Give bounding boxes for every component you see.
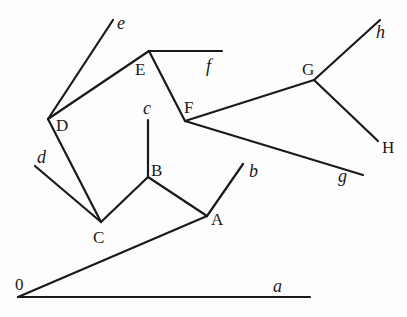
edge-G-h [314, 20, 380, 80]
leaf-label-f: f [206, 56, 214, 76]
leaf-label-h: h [376, 22, 385, 42]
edge-A-b [207, 164, 243, 216]
edge-D-e [48, 20, 113, 119]
edge-D-E [48, 51, 149, 119]
node-label-D: D [56, 116, 68, 135]
edge-C-d [35, 166, 101, 222]
leaf-label-c: c [143, 98, 151, 118]
node-label-A: A [211, 210, 224, 229]
labels-layer: 0ABCDEFGHabcdefgh [15, 13, 394, 296]
leaf-label-a: a [273, 276, 282, 296]
node-label-B: B [151, 161, 162, 180]
leaf-label-d: d [37, 147, 47, 167]
edge-A-B [148, 177, 207, 216]
edge-0-A [18, 216, 207, 297]
edge-B-C [101, 177, 148, 222]
node-label-F: F [184, 98, 193, 117]
edge-G-H [314, 80, 378, 141]
leaf-label-g: g [338, 166, 347, 186]
leaf-label-b: b [249, 161, 258, 181]
node-label-H: H [382, 138, 394, 157]
edge-F-G [185, 80, 314, 121]
tree-diagram: 0ABCDEFGHabcdefgh [0, 0, 407, 317]
tree-diagram-svg: 0ABCDEFGHabcdefgh [0, 0, 407, 317]
node-label-E: E [135, 60, 145, 79]
node-label-C: C [93, 228, 104, 247]
edge-F-g [185, 121, 363, 175]
node-label-0: 0 [15, 275, 24, 294]
node-label-G: G [302, 60, 314, 79]
edge-E-F [149, 51, 185, 121]
leaf-label-e: e [117, 13, 125, 33]
edges-layer [18, 20, 380, 297]
